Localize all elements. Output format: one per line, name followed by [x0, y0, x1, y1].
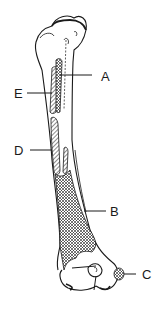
region-a-strip: [56, 59, 62, 113]
label-e: E: [14, 87, 23, 100]
label-b: B: [110, 205, 119, 218]
label-d: D: [14, 144, 23, 157]
label-c: C: [142, 268, 151, 281]
distal-condyles: [60, 262, 118, 290]
region-b-crosshatch: [55, 170, 96, 270]
humerus-diagram: [0, 0, 157, 313]
label-a: A: [101, 70, 110, 83]
region-c-crosshatch: [114, 268, 124, 280]
